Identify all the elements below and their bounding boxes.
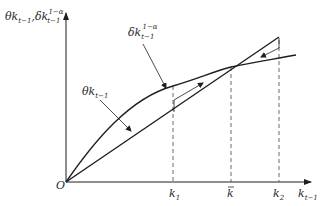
linear-label-leader: [100, 100, 131, 131]
x-axis-label: kt−1: [298, 187, 318, 202]
origin-label: O: [56, 179, 65, 192]
concave-label-leader: [143, 44, 166, 88]
y-axis-label: θkt−1,δkt−11−α: [5, 8, 64, 25]
linear-theta-k-line: [66, 37, 279, 182]
x-tick-k1: k1: [169, 187, 180, 202]
x-tick-kbar: k: [227, 187, 234, 200]
diagram-canvas: θkt−1,δkt−11−α δkt−11−α θkt−1 O k1 k k2 …: [0, 0, 326, 206]
k2-dynamics-arrow: [261, 48, 279, 57]
linear-curve-label: θkt−1: [82, 85, 108, 100]
concave-curve-label: δkt−11−α: [128, 23, 158, 41]
x-tick-k2: k2: [273, 187, 285, 202]
concave-delta-k-curve: [66, 55, 296, 182]
